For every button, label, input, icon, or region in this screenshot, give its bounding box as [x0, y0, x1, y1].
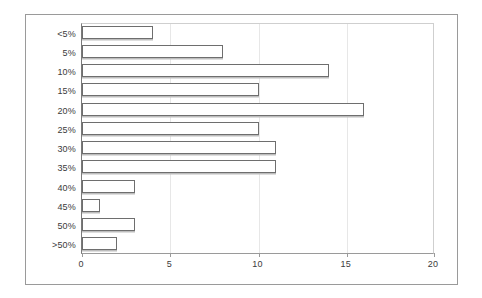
category-label: 30% [57, 144, 76, 154]
plot-area: <5% 5% 10% 15% 20% 25% [81, 23, 434, 254]
category-label: 15% [57, 86, 76, 96]
x-axis-tick-label: 15 [341, 259, 351, 269]
bar-row: 5% [82, 43, 433, 62]
bar-row: 40% [82, 178, 433, 197]
bar-25[interactable] [82, 122, 259, 135]
bar-row: 35% [82, 159, 433, 178]
category-label: 10% [57, 67, 76, 77]
bar-row: 30% [82, 140, 433, 159]
bar-10[interactable] [82, 64, 329, 77]
x-axis-tick-label: 10 [252, 259, 262, 269]
bar-row: 25% [82, 120, 433, 139]
category-label: 20% [57, 106, 76, 116]
bar-chart: <5% 5% 10% 15% 20% 25% [26, 15, 459, 286]
category-label: 35% [57, 163, 76, 173]
bar-row: 50% [82, 217, 433, 236]
category-label: 50% [57, 221, 76, 231]
category-label: 5% [63, 48, 76, 58]
x-axis-tick-label: 20 [428, 259, 438, 269]
bar-45[interactable] [82, 199, 100, 212]
bar-5[interactable] [82, 45, 223, 58]
bar-row: 20% [82, 101, 433, 120]
bar-50[interactable] [82, 218, 135, 231]
bar-40[interactable] [82, 180, 135, 193]
category-label: <5% [57, 29, 76, 39]
bar-row: >50% [82, 236, 433, 255]
tick-mark-x-20 [434, 253, 435, 257]
category-label: 45% [57, 202, 76, 212]
bar-row: 10% [82, 63, 433, 82]
bar-row: <5% [82, 24, 433, 43]
category-label: >50% [52, 240, 76, 250]
figure-frame: <5% 5% 10% 15% 20% 25% [25, 14, 458, 285]
bar-gt50[interactable] [82, 237, 117, 250]
x-axis-tick-label: 0 [78, 259, 83, 269]
bar-row: 45% [82, 197, 433, 216]
category-label: 25% [57, 125, 76, 135]
bar-row: 15% [82, 82, 433, 101]
category-label: 40% [57, 183, 76, 193]
bar-20[interactable] [82, 103, 364, 116]
bar-30[interactable] [82, 141, 276, 154]
bar-lt5[interactable] [82, 26, 153, 39]
x-axis-tick-label: 5 [167, 259, 172, 269]
bar-15[interactable] [82, 83, 259, 96]
bar-35[interactable] [82, 160, 276, 173]
